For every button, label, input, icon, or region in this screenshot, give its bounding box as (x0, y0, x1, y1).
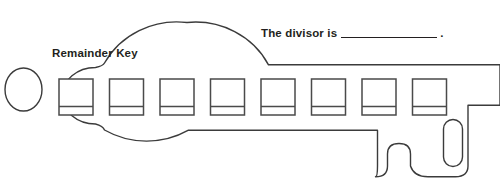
answer-box[interactable] (110, 79, 144, 115)
answer-box[interactable] (362, 79, 396, 115)
answer-box[interactable] (413, 79, 447, 115)
answer-box[interactable] (160, 79, 194, 115)
divisor-prompt-suffix: . (440, 27, 443, 39)
page-title: Remainder Key (52, 47, 138, 59)
divisor-prompt: The divisor is. (261, 26, 444, 39)
key-ring-hole (5, 68, 42, 111)
key-bit-slot (444, 120, 463, 167)
answer-box[interactable] (211, 79, 245, 115)
answer-box[interactable] (59, 79, 93, 115)
answer-box[interactable] (261, 79, 295, 115)
divisor-blank-input[interactable] (341, 26, 437, 38)
answer-box[interactable] (312, 79, 346, 115)
divisor-prompt-prefix: The divisor is (261, 27, 337, 39)
remainder-key-worksheet: Remainder Key The divisor is. (0, 0, 500, 193)
